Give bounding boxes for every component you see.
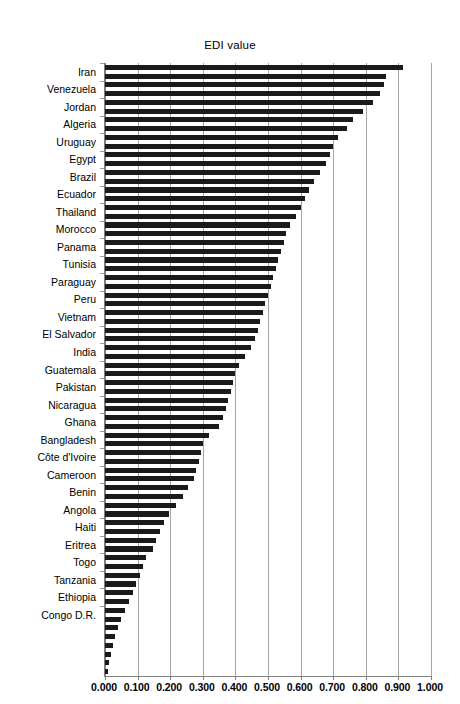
x-axis-tick <box>203 676 204 680</box>
gridline <box>431 63 432 676</box>
y-axis-category-label: India <box>73 346 96 358</box>
y-axis-category-label: Pakistan <box>56 381 96 393</box>
bar <box>105 328 258 333</box>
bar <box>105 301 265 306</box>
bar <box>105 669 108 674</box>
bar <box>105 468 196 473</box>
bar <box>105 100 373 105</box>
y-axis-category-label: Iran <box>78 66 96 78</box>
bar <box>105 511 169 516</box>
y-axis-category-label: Peru <box>74 293 96 305</box>
y-axis-category-label: Brazil <box>70 171 96 183</box>
y-axis-category-label: Togo <box>73 556 96 568</box>
bar <box>105 109 363 114</box>
bar <box>105 608 125 613</box>
bar <box>105 214 296 219</box>
bar <box>105 205 301 210</box>
x-axis-tick <box>235 676 236 680</box>
y-axis-category-label: Venezuela <box>47 83 96 95</box>
bar <box>105 117 353 122</box>
x-axis-tick <box>333 676 334 680</box>
bar <box>105 82 384 87</box>
bar <box>105 179 314 184</box>
bar <box>105 564 143 569</box>
plot-area <box>104 63 431 677</box>
bar <box>105 336 255 341</box>
x-axis-tick <box>170 676 171 680</box>
bar <box>105 652 111 657</box>
x-axis-tick-label: 0.100 <box>124 681 150 694</box>
bar <box>105 380 233 385</box>
bar <box>105 441 203 446</box>
bar <box>105 590 133 595</box>
bar <box>105 275 273 280</box>
x-axis-tick <box>105 676 106 680</box>
y-axis-category-label: Ghana <box>64 416 96 428</box>
x-axis-tick <box>301 676 302 680</box>
x-axis-tick-label: 0.700 <box>319 681 345 694</box>
x-axis-tick-label: 0.800 <box>352 681 378 694</box>
bar <box>105 433 209 438</box>
bar <box>105 135 338 140</box>
y-axis-category-labels: IranVenezuelaJordanAlgeriaUruguayEgyptBr… <box>0 63 104 676</box>
y-axis-category-label: Benin <box>69 486 96 498</box>
bar <box>105 503 176 508</box>
y-axis-category-label: Guatemala <box>45 364 96 376</box>
y-axis-category-label: Cameroon <box>47 469 96 481</box>
bar <box>105 284 271 289</box>
bar <box>105 581 136 586</box>
x-axis-tick-label: 0.500 <box>254 681 280 694</box>
y-axis-category-label: Tanzania <box>54 574 96 586</box>
y-axis-category-label: Congo D.R. <box>41 609 96 621</box>
y-axis-category-label: Morocco <box>56 223 96 235</box>
bar <box>105 634 115 639</box>
y-axis-category-label: Bangladesh <box>41 434 96 446</box>
bar <box>105 266 276 271</box>
bar <box>105 573 140 578</box>
bar <box>105 546 153 551</box>
bar <box>105 625 118 630</box>
bar <box>105 555 146 560</box>
bar <box>105 363 239 368</box>
bar <box>105 74 386 79</box>
bar <box>105 319 260 324</box>
y-axis-category-label: El Salvador <box>42 328 96 340</box>
x-axis-tick <box>268 676 269 680</box>
bar <box>105 222 290 227</box>
edi-value-bar-chart: EDI value IranVenezuelaJordanAlgeriaUrug… <box>0 0 460 704</box>
bar <box>105 424 219 429</box>
bar <box>105 345 251 350</box>
y-axis-category-label: Vietnam <box>58 311 96 323</box>
bar <box>105 538 156 543</box>
x-axis-tick <box>366 676 367 680</box>
bar <box>105 485 188 490</box>
y-axis-category-label: Tunisia <box>63 258 96 270</box>
x-axis-tick-label: 1.000 <box>417 681 443 694</box>
x-axis-tick <box>431 676 432 680</box>
y-axis-category-label: Angola <box>63 504 96 516</box>
bar <box>105 240 284 245</box>
x-axis-tick <box>138 676 139 680</box>
x-axis-tick-label: 0.000 <box>91 681 117 694</box>
bar <box>105 249 281 254</box>
bar <box>105 371 235 376</box>
bar <box>105 389 231 394</box>
bar <box>105 450 201 455</box>
bar <box>105 494 183 499</box>
bar <box>105 520 164 525</box>
x-axis-tick-label: 0.600 <box>287 681 313 694</box>
x-axis-tick-label: 0.300 <box>189 681 215 694</box>
bar <box>105 310 263 315</box>
bar <box>105 406 226 411</box>
bar <box>105 293 268 298</box>
bar <box>105 65 403 70</box>
bar <box>105 187 309 192</box>
y-axis-category-label: Haiti <box>75 521 96 533</box>
bar <box>105 126 347 131</box>
bar <box>105 257 278 262</box>
y-axis-category-label: Egypt <box>69 153 96 165</box>
bar <box>105 459 199 464</box>
x-axis-tick-label: 0.200 <box>156 681 182 694</box>
gridline <box>398 63 399 676</box>
bar <box>105 529 160 534</box>
